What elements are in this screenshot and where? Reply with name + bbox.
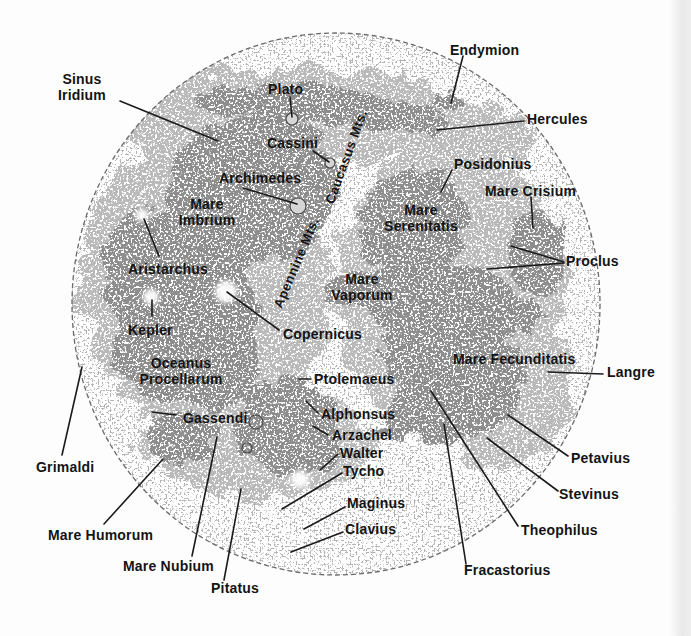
label-oceanus-procellarum: Oceanus Procellarum	[135, 356, 227, 387]
label-kepler: Kepler	[128, 323, 173, 339]
copernicus-bright-spot	[215, 281, 237, 303]
label-langrenus: Langre	[607, 365, 655, 381]
label-sinus-iridium: Sinus Iridium	[48, 72, 116, 103]
label-mare-imbrium: Mare Imbrium	[166, 197, 248, 228]
label-alphonsus: Alphonsus	[321, 407, 395, 423]
archimedes-ring	[290, 198, 306, 214]
label-clavius: Clavius	[345, 522, 396, 538]
label-archimedes: Archimedes	[219, 171, 301, 187]
label-cassini: Cassini	[267, 136, 318, 152]
label-grimaldi: Grimaldi	[36, 460, 94, 476]
label-fracastorius: Fracastorius	[464, 563, 550, 579]
label-mare-serenitatis: Mare Serenitatis	[379, 203, 463, 234]
label-mare-vaporum: Mare Vaporum	[323, 272, 401, 303]
label-copernicus: Copernicus	[283, 327, 362, 343]
label-walter: Walter	[340, 446, 383, 462]
label-ptolemaeus: Ptolemaeus	[314, 372, 395, 388]
label-mare-nubium: Mare Nubium	[123, 559, 214, 575]
label-theophilus: Theophilus	[521, 523, 598, 539]
label-endymion: Endymion	[450, 43, 519, 59]
label-pitatus: Pitatus	[211, 581, 259, 597]
label-proclus: Proclus	[566, 254, 619, 270]
dissolve-texture	[60, 20, 620, 600]
label-posidonius: Posidonius	[454, 157, 531, 173]
moon-map: Sinus Iridium Plato Endymion Hercules Ca…	[0, 0, 691, 636]
label-aristarchus: Aristarchus	[128, 262, 208, 278]
label-arzachel: Arzachel	[332, 428, 392, 444]
label-mare-humorum: Mare Humorum	[48, 528, 153, 544]
label-gassendi: Gassendi	[183, 411, 248, 427]
label-mare-fecunditatis: Mare Fecunditatis	[453, 352, 575, 368]
tycho-bright-spot	[291, 470, 309, 488]
kepler-bright-spot	[143, 289, 159, 305]
label-tycho: Tycho	[343, 464, 384, 480]
label-plato: Plato	[268, 82, 303, 98]
moon-disk	[60, 20, 620, 600]
label-stevinus: Stevinus	[559, 487, 619, 503]
aristarchus-bright-spot	[135, 208, 149, 222]
leader-line-grimaldi	[62, 367, 82, 455]
label-petavius: Petavius	[571, 451, 630, 467]
label-maginus: Maginus	[347, 496, 405, 512]
label-mare-crisium: Mare Crisium	[485, 184, 576, 200]
label-hercules: Hercules	[527, 112, 588, 128]
